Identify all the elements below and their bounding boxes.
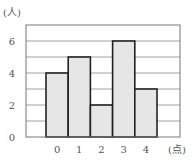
bar-0 [46, 73, 68, 137]
y-tick-label: 2 [9, 100, 15, 111]
y-axis-unit-label: (人) [3, 7, 21, 18]
y-tick-label: 6 [9, 36, 15, 47]
bar-2 [90, 105, 112, 137]
bar-4 [135, 89, 157, 137]
y-tick-labels: 0246 [9, 36, 15, 143]
x-tick-label: 2 [98, 144, 104, 155]
bar-3 [113, 41, 135, 137]
bar-1 [68, 57, 90, 137]
y-tick-label: 0 [9, 132, 15, 143]
x-tick-label: 4 [143, 144, 149, 155]
x-tick-label: 0 [54, 144, 60, 155]
x-tick-label: 1 [76, 144, 82, 155]
x-axis-unit-label: (点) [168, 144, 186, 155]
y-tick-label: 4 [9, 68, 15, 79]
x-tick-labels: 01234 [54, 144, 149, 155]
x-tick-label: 3 [121, 144, 127, 155]
bar-chart: (人) 0246 01234 (点) [0, 0, 196, 160]
